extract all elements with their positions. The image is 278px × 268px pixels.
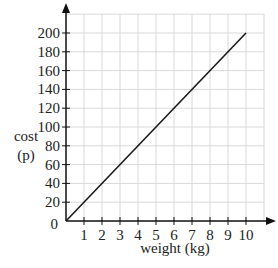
origin-label: 0: [51, 216, 59, 232]
y-tick-label: 80: [45, 138, 60, 154]
x-axis-arrow-icon: [266, 217, 276, 225]
y-axis-title-line2: (p): [17, 147, 35, 164]
y-tick-label: 60: [45, 157, 60, 173]
x-tick-label: 2: [98, 227, 106, 243]
x-axis-title: weight (kg): [140, 240, 210, 257]
y-axis-arrow-icon: [62, 3, 70, 13]
x-tick-label: 3: [116, 227, 124, 243]
y-tick-label: 120: [38, 100, 61, 116]
y-tick-label: 200: [38, 25, 61, 41]
y-tick-label: 140: [38, 81, 61, 97]
tick-labels: 12345678910204060801001201401601802000: [38, 25, 254, 243]
y-tick-label: 160: [38, 63, 61, 79]
cost-weight-chart: 12345678910204060801001201401601802000 c…: [0, 0, 278, 268]
y-tick-label: 100: [38, 119, 61, 135]
x-tick-label: 9: [224, 227, 232, 243]
x-tick-label: 10: [239, 227, 254, 243]
x-tick-label: 1: [80, 227, 88, 243]
y-tick-label: 20: [45, 194, 60, 210]
y-axis-title-line1: cost: [14, 128, 39, 144]
y-tick-label: 40: [45, 175, 60, 191]
y-tick-label: 180: [38, 44, 61, 60]
